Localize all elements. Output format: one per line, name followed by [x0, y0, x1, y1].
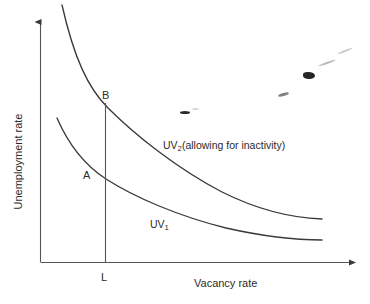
uv-curve-figure: Unemployment rate Vacancy rate L A B UV2… — [0, 0, 370, 304]
labour-supply-label: L — [101, 272, 107, 283]
uv1-label-prefix: UV — [150, 218, 165, 230]
x-axis-title: Vacancy rate — [194, 278, 257, 289]
point-label-b: B — [102, 90, 109, 101]
uv2-label-prefix: UV — [163, 139, 178, 151]
point-label-a: A — [83, 170, 90, 181]
uv1-curve-label: UV1 — [150, 219, 169, 232]
scan-artifact-2 — [192, 108, 199, 110]
scan-artifact-4 — [303, 72, 315, 79]
uv1-label-subscript: 1 — [165, 223, 169, 232]
uv2-label-suffix: (allowing for inactivity) — [182, 139, 285, 151]
scan-artifact-1 — [180, 111, 190, 114]
uv1-curve — [57, 118, 322, 240]
uv2-curve — [62, 5, 322, 219]
y-axis-title: Unemployment rate — [13, 98, 24, 226]
uv2-curve-label: UV2(allowing for inactivity) — [163, 140, 285, 153]
